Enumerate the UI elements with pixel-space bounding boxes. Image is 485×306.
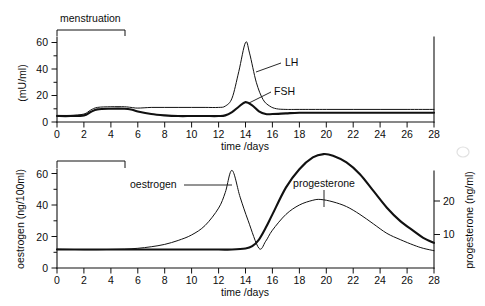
bottom-ytick-60: 60 [36, 168, 48, 180]
top-x-ticks [57, 122, 434, 128]
top-x-axis-title: time /days [221, 140, 269, 152]
bottom-y-ticks-right [434, 201, 440, 235]
top-y-axis-title: (mU/ml) [16, 64, 28, 101]
bottom-xtick-24: 24 [374, 274, 386, 286]
bottom-xtick-20: 20 [320, 274, 332, 286]
top-ytick-60: 60 [36, 36, 48, 48]
hormone-cycle-figure: menstruation 60 40 20 0 (mU/ml) [0, 0, 485, 306]
bottom-xtick-12: 12 [213, 274, 225, 286]
top-xtick-20: 20 [320, 128, 332, 140]
bottom-ytick-right-10: 10 [443, 228, 455, 240]
top-xtick-0: 0 [54, 128, 60, 140]
top-xtick-4: 4 [108, 128, 114, 140]
top-xtick-6: 6 [135, 128, 141, 140]
bottom-xtick-26: 26 [401, 274, 413, 286]
menstruation-label: menstruation [60, 12, 121, 24]
top-xtick-28: 28 [428, 128, 440, 140]
oestrogen-label: oestrogen [130, 178, 177, 190]
bottom-xtick-14: 14 [240, 274, 252, 286]
menstruation-bracket [57, 30, 125, 36]
top-xtick-14: 14 [240, 128, 252, 140]
bottom-ytick-0: 0 [42, 262, 48, 274]
bottom-ytick-20: 20 [36, 231, 48, 243]
top-xtick-22: 22 [347, 128, 359, 140]
progesterone-curve [57, 154, 434, 250]
menstruation-bracket-bottom [57, 161, 125, 168]
chart-canvas: menstruation 60 40 20 0 (mU/ml) [0, 0, 485, 306]
bottom-y-ticks-left [52, 174, 58, 269]
progesterone-label: progesterone [293, 177, 355, 189]
top-xtick-24: 24 [374, 128, 386, 140]
bottom-xtick-2: 2 [81, 274, 87, 286]
scan-artifact [457, 147, 469, 157]
top-ytick-20: 20 [36, 89, 48, 101]
oestrogen-curve [57, 170, 434, 250]
lh-label: LH [285, 56, 298, 68]
bottom-x-axis-title: time /days [221, 286, 269, 298]
bottom-xtick-18: 18 [294, 274, 306, 286]
top-panel: menstruation 60 40 20 0 (mU/ml) [16, 12, 440, 152]
top-x-tick-labels: 0 2 4 6 8 10 12 14 16 18 20 22 24 26 28 [54, 128, 440, 140]
lh-leader-line [256, 63, 281, 72]
bottom-xtick-28: 28 [428, 274, 440, 286]
bottom-xtick-8: 8 [162, 274, 168, 286]
fsh-label: FSH [274, 85, 295, 97]
bottom-xtick-10: 10 [186, 274, 198, 286]
top-xtick-10: 10 [186, 128, 198, 140]
bottom-x-ticks [57, 268, 434, 274]
bottom-xtick-0: 0 [54, 274, 60, 286]
top-xtick-12: 12 [213, 128, 225, 140]
top-xtick-8: 8 [162, 128, 168, 140]
lh-curve [57, 42, 434, 116]
top-xtick-2: 2 [81, 128, 87, 140]
bottom-xtick-6: 6 [135, 274, 141, 286]
bottom-y-axis-left-title: oestrogen (ng/100ml) [14, 169, 26, 269]
top-ytick-40: 40 [36, 63, 48, 75]
bottom-y-axis-right-title: progesterone (ng/ml) [463, 171, 475, 268]
bottom-xtick-22: 22 [347, 274, 359, 286]
bottom-xtick-4: 4 [108, 274, 114, 286]
bottom-ytick-right-20: 20 [443, 195, 455, 207]
bottom-ytick-40: 40 [36, 199, 48, 211]
top-xtick-18: 18 [294, 128, 306, 140]
top-ytick-0: 0 [42, 116, 48, 128]
bottom-x-tick-labels: 0 2 4 6 8 10 12 14 16 18 20 22 24 26 28 [54, 274, 440, 286]
top-y-ticks [52, 43, 58, 123]
bottom-xtick-16: 16 [267, 274, 279, 286]
bottom-panel: 60 40 20 0 oestrogen (ng/100ml) [14, 154, 475, 298]
top-xtick-26: 26 [401, 128, 413, 140]
top-xtick-16: 16 [267, 128, 279, 140]
